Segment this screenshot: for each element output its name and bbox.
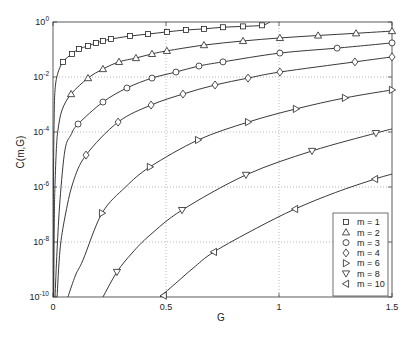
- legend-label: m = 2: [357, 228, 380, 238]
- square-marker-icon: [220, 25, 225, 30]
- square-marker-icon: [60, 59, 65, 64]
- y-axis-label: C(m,G): [15, 136, 26, 169]
- legend: m = 1m = 2m = 3m = 4m = 6m = 8m = 10: [333, 213, 388, 296]
- y-tick-base: 10: [33, 237, 43, 247]
- legend-square-icon: [344, 220, 349, 225]
- y-tick-exponent: -4: [43, 125, 49, 132]
- square-marker-icon: [69, 51, 74, 56]
- x-tick-label: 0: [50, 302, 55, 312]
- square-marker-icon: [93, 40, 98, 45]
- circle-marker-icon: [277, 50, 283, 56]
- y-tick-base: 10: [35, 17, 45, 27]
- square-marker-icon: [183, 27, 188, 32]
- square-marker-icon: [109, 37, 114, 42]
- square-marker-icon: [145, 32, 150, 37]
- legend-item: m = 10: [342, 279, 384, 289]
- x-tick-label: 1: [276, 302, 281, 312]
- square-marker-icon: [241, 24, 246, 29]
- circle-marker-icon: [173, 69, 179, 75]
- chart-figure: 10010-210-410-610-810-10 00.511.5 C(m,G)…: [0, 0, 416, 338]
- square-marker-icon: [128, 34, 133, 39]
- square-marker-icon: [260, 23, 265, 28]
- square-marker-icon: [164, 29, 169, 34]
- y-tick-exponent: -10: [40, 290, 50, 297]
- x-axis-label: G: [217, 312, 225, 323]
- circle-marker-icon: [334, 45, 340, 51]
- y-tick-base: 10: [33, 127, 43, 137]
- y-tick-exponent: -8: [43, 235, 49, 242]
- legend-label: m = 3: [357, 238, 380, 248]
- x-tick-label: 0.5: [160, 302, 173, 312]
- y-tick-exponent: 0: [45, 15, 49, 22]
- y-tick-exponent: -6: [43, 180, 49, 187]
- square-marker-icon: [86, 43, 91, 48]
- legend-label: m = 4: [357, 248, 380, 258]
- legend-circle-icon: [343, 240, 349, 246]
- y-tick-base: 10: [33, 72, 43, 82]
- x-tick-label: 1.5: [386, 302, 399, 312]
- legend-label: m = 1: [357, 217, 380, 227]
- y-tick-base: 10: [30, 292, 40, 302]
- legend-label: m = 6: [357, 258, 380, 268]
- circle-marker-icon: [124, 85, 130, 91]
- circle-marker-icon: [196, 63, 202, 69]
- circle-marker-icon: [220, 59, 226, 65]
- legend-label: m = 8: [357, 269, 380, 279]
- legend-label: m = 10: [357, 279, 385, 289]
- line-chart: 10010-210-410-610-810-10 00.511.5 C(m,G)…: [0, 0, 416, 338]
- square-marker-icon: [100, 38, 105, 43]
- circle-marker-icon: [389, 40, 395, 46]
- y-tick-exponent: -2: [43, 70, 49, 77]
- y-tick-base: 10: [33, 182, 43, 192]
- circle-marker-icon: [75, 121, 81, 127]
- circle-marker-icon: [149, 75, 155, 81]
- square-marker-icon: [201, 26, 206, 31]
- circle-marker-icon: [100, 99, 106, 105]
- square-marker-icon: [76, 46, 81, 51]
